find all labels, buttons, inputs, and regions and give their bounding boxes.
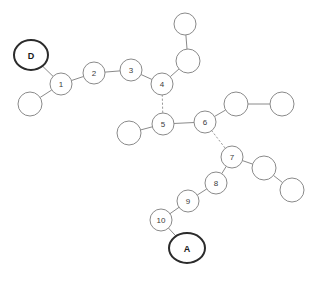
edge-n7-u7 xyxy=(242,161,252,165)
node-label-A: A xyxy=(184,244,191,254)
node-u8[interactable] xyxy=(280,178,304,202)
node-label-n3: 3 xyxy=(129,66,134,75)
node-circle-u6[interactable] xyxy=(270,92,294,116)
edge-n10-A xyxy=(168,228,175,236)
node-label-n2: 2 xyxy=(92,69,97,78)
node-n10[interactable]: 10 xyxy=(150,209,172,231)
edge-n1-n2 xyxy=(71,76,83,80)
node-u7[interactable] xyxy=(252,156,276,180)
node-n1[interactable]: 1 xyxy=(50,73,72,95)
node-label-D: D xyxy=(28,51,35,61)
node-circle-u2[interactable] xyxy=(176,49,200,73)
node-label-n9: 9 xyxy=(186,197,191,206)
node-n3[interactable]: 3 xyxy=(120,59,142,81)
edge-n2-n3 xyxy=(105,71,120,72)
node-n5[interactable]: 5 xyxy=(152,113,174,135)
node-n4[interactable]: 4 xyxy=(151,73,173,95)
node-label-n1: 1 xyxy=(59,80,64,89)
node-u3[interactable] xyxy=(174,13,196,35)
node-circle-u8[interactable] xyxy=(280,178,304,202)
node-label-n10: 10 xyxy=(157,216,166,225)
node-label-n7: 7 xyxy=(230,153,235,162)
node-n9[interactable]: 9 xyxy=(177,190,199,212)
edge-n7-n8 xyxy=(222,166,226,173)
node-u4[interactable] xyxy=(117,121,141,145)
node-n7[interactable]: 7 xyxy=(221,146,243,168)
node-u5[interactable] xyxy=(224,92,248,116)
edge-n3-n4 xyxy=(141,75,152,80)
node-n8[interactable]: 8 xyxy=(205,172,227,194)
node-circle-u1[interactable] xyxy=(18,92,42,116)
node-circle-u4[interactable] xyxy=(117,121,141,145)
node-n6[interactable]: 6 xyxy=(194,111,216,133)
node-label-n8: 8 xyxy=(214,179,219,188)
node-label-n5: 5 xyxy=(161,120,166,129)
node-u6[interactable] xyxy=(270,92,294,116)
node-layer: D12345678910A xyxy=(14,13,304,263)
node-label-n4: 4 xyxy=(160,80,165,89)
node-A[interactable]: A xyxy=(169,233,205,263)
edge-n4-u2 xyxy=(170,69,179,77)
graph-diagram: D12345678910A xyxy=(0,0,317,281)
edge-n9-n10 xyxy=(170,207,179,213)
node-u2[interactable] xyxy=(176,49,200,73)
edge-layer xyxy=(40,35,282,236)
edge-D-n1 xyxy=(43,66,54,76)
node-circle-u3[interactable] xyxy=(174,13,196,35)
node-label-n6: 6 xyxy=(203,118,208,127)
edge-n6-u5 xyxy=(215,110,226,116)
edge-u7-u8 xyxy=(273,175,282,182)
edge-n6-n7 xyxy=(212,131,226,149)
edge-u2-u3 xyxy=(186,35,187,49)
edge-n8-n9 xyxy=(197,189,207,195)
edge-u4-n5 xyxy=(141,127,153,130)
node-u1[interactable] xyxy=(18,92,42,116)
edge-n5-n6 xyxy=(174,123,194,124)
node-circle-u5[interactable] xyxy=(224,92,248,116)
node-D[interactable]: D xyxy=(14,40,48,70)
node-circle-u7[interactable] xyxy=(252,156,276,180)
node-n2[interactable]: 2 xyxy=(83,62,105,84)
edge-u1-n1 xyxy=(40,90,52,98)
